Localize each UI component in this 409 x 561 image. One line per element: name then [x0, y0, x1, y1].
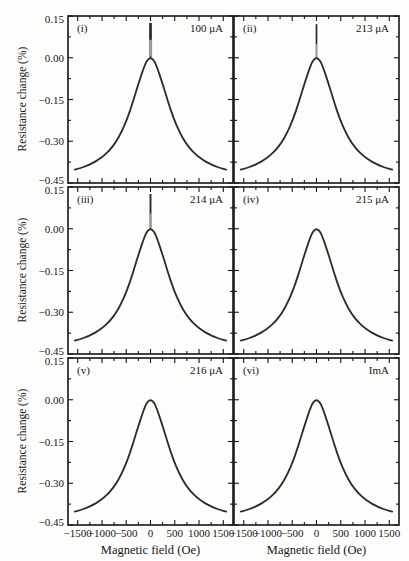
mr-curve-iv — [241, 229, 392, 340]
x-tick-label: −500 — [115, 527, 138, 539]
y-tick-label: −0.15 — [39, 265, 65, 277]
panel-frame-vi — [234, 358, 399, 525]
x-tick-label: 500 — [167, 527, 184, 539]
x-tick-label: 0 — [148, 527, 154, 539]
y-tick-label: −0.30 — [39, 135, 65, 147]
x-tick-label: −1000 — [254, 527, 283, 539]
panel-frame-iv — [234, 187, 399, 354]
y-tick-label: −0.30 — [39, 477, 65, 489]
x-tick-label: 0 — [314, 527, 320, 539]
y-tick-label: 0.00 — [45, 394, 65, 406]
figure-root: 0.150.00−0.15−0.30−0.450.150.00−0.15−0.3… — [0, 0, 409, 561]
y-tick-label: 0.00 — [45, 223, 65, 235]
x-axis-label-right: Magnetic field (Oe) — [234, 543, 399, 558]
y-tick-label: −0.30 — [39, 306, 65, 318]
mr-curve-v — [75, 400, 226, 511]
y-tick-label: 0.00 — [45, 52, 65, 64]
current-label-i: 100 μA — [68, 22, 223, 34]
y-tick-label: 0.15 — [45, 13, 65, 25]
x-tick-label: −500 — [281, 527, 304, 539]
y-tick-label: −0.15 — [39, 436, 65, 448]
current-label-vi: ImA — [234, 364, 389, 376]
current-label-iv: 215 μA — [234, 193, 389, 205]
y-tick-label: 0.15 — [45, 184, 65, 196]
x-tick-label: 1500 — [378, 527, 401, 539]
current-label-iii: 214 μA — [68, 193, 223, 205]
mr-curve-iii — [75, 229, 226, 340]
x-axis-label-left: Magnetic field (Oe) — [68, 543, 233, 558]
x-tick-label: 500 — [333, 527, 350, 539]
x-tick-label: 1000 — [188, 527, 211, 539]
resistance-vs-field-figure: 0.150.00−0.15−0.30−0.450.150.00−0.15−0.3… — [0, 0, 409, 561]
y-tick-label: 0.15 — [45, 355, 65, 367]
mr-curve-ii — [241, 58, 392, 169]
mr-curve-i — [75, 58, 226, 169]
y-axis-label-row2: Resistance change (%) — [15, 187, 29, 354]
current-label-ii: 213 μA — [234, 22, 389, 34]
y-axis-label-row3: Resistance change (%) — [15, 358, 29, 525]
x-tick-label: 1000 — [354, 527, 377, 539]
y-tick-label: −0.45 — [39, 516, 65, 528]
y-tick-label: −0.15 — [39, 94, 65, 106]
x-tick-label: −1000 — [88, 527, 117, 539]
y-axis-label-row1: Resistance change (%) — [15, 16, 29, 183]
mr-curve-vi — [241, 400, 392, 511]
current-label-v: 216 μA — [68, 364, 223, 376]
panel-frame-v — [68, 358, 233, 525]
